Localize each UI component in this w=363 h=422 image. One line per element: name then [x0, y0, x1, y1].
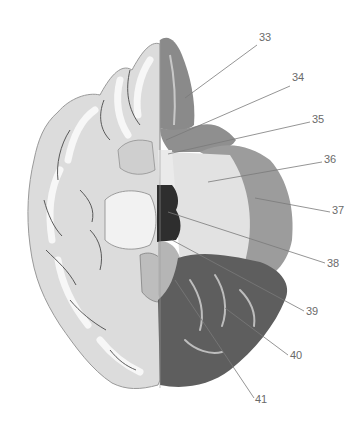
left-hemisphere	[28, 43, 165, 388]
label-40: 40	[290, 350, 302, 361]
region-36	[170, 152, 250, 267]
label-34: 34	[292, 72, 304, 83]
leader-33	[185, 45, 257, 98]
label-36: 36	[324, 154, 336, 165]
label-37: 37	[332, 205, 344, 216]
brain-illustration	[0, 0, 363, 422]
region-40	[158, 254, 287, 387]
label-39: 39	[306, 306, 318, 317]
label-35: 35	[312, 114, 324, 125]
label-38: 38	[327, 258, 339, 269]
label-41: 41	[255, 394, 267, 405]
right-hemisphere-regions	[157, 38, 293, 388]
brain-section-figure: 33 34 35 36 37 38 39 40 41	[0, 0, 363, 422]
region-33	[160, 38, 194, 131]
label-33: 33	[259, 32, 271, 43]
